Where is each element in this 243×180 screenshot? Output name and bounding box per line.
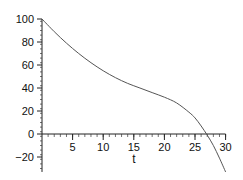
x-tick-label: 20 bbox=[158, 141, 170, 153]
x-axis: 51015202530 bbox=[42, 134, 232, 153]
y-tick-label: 0 bbox=[28, 128, 34, 140]
y-tick-label: 60 bbox=[22, 59, 34, 71]
x-tick-label: 5 bbox=[70, 141, 76, 153]
x-tick-label: 30 bbox=[219, 141, 231, 153]
y-tick-label: 40 bbox=[22, 82, 34, 94]
y-tick-label: 20 bbox=[22, 105, 34, 117]
y-tick-label: 80 bbox=[22, 36, 34, 48]
y-axis: −20020406080100 bbox=[15, 13, 42, 172]
y-tick-label: −20 bbox=[15, 151, 34, 163]
y-tick-label: 100 bbox=[16, 13, 34, 25]
x-tick-label: 10 bbox=[97, 141, 109, 153]
x-tick-label: 25 bbox=[189, 141, 201, 153]
line-chart: −20020406080100 51015202530 t bbox=[0, 0, 243, 180]
x-axis-label: t bbox=[132, 152, 136, 166]
